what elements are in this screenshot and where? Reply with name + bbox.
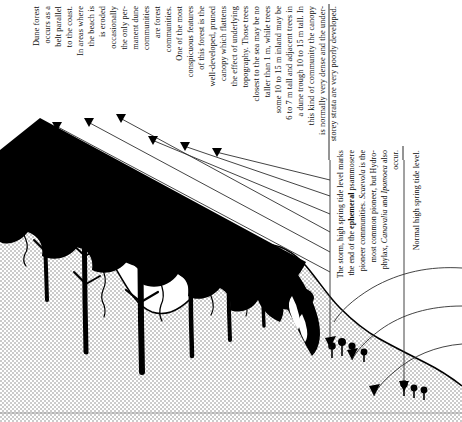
caption-line: taller than 1 m, while trees	[263, 6, 273, 97]
caption-line: is eroded	[98, 6, 108, 37]
caption-line: manent dune	[131, 6, 141, 50]
caption-line: occurs as a	[43, 6, 53, 44]
caption-line: One of the most	[175, 6, 185, 61]
caption-line: some 10 to 15 m inland may be	[274, 6, 284, 113]
dune-forest-figure: Dune forest occurs as a belt parallel to…	[0, 0, 462, 422]
caption-line: pioneer communities. Scaevola is the	[358, 150, 368, 271]
caption-line: the effect of underlying	[230, 6, 240, 86]
caption-dividers	[329, 4, 403, 160]
caption-line: In areas where	[76, 6, 86, 56]
caption-line: phylax, Canavalia and Ipomoea also	[380, 150, 390, 269]
caption-line: occur.	[391, 150, 401, 170]
caption-line: storey strata are very poorly developed.	[329, 6, 339, 141]
caption-line: Dune forest	[32, 6, 42, 46]
caption-line: of this forest is the	[197, 6, 207, 70]
caption-line: belt parallel	[54, 6, 64, 47]
caption-line: the only per-	[120, 6, 130, 50]
caption-line: well-developed, pruned	[208, 6, 218, 87]
caption-line: is normally very dense and the under-	[318, 6, 328, 135]
caption-line: the end of the ephemeral psammosere	[347, 150, 357, 276]
caption-line: this kind of community the canopy	[307, 6, 317, 125]
caption-line: communities.	[164, 6, 174, 52]
caption-line: are forest	[153, 6, 163, 38]
caption-line: most common pioneer, but Hydro-	[369, 150, 379, 262]
caption-line: topography. Those trees	[241, 6, 251, 88]
caption-line: communities	[142, 6, 152, 50]
caption-line: 6 to 7 m tall and adjacent trees in	[285, 6, 295, 120]
caption-line: a dune trough 10 to 15 m tall. In	[296, 6, 306, 116]
caption-line: canopy which flattens	[219, 6, 229, 81]
caption-line: to the coast.	[65, 6, 75, 47]
caption-line: occasionally	[109, 6, 119, 49]
caption-line: The storm, high spring tide level marks	[336, 150, 346, 278]
caption-line: the beach is	[87, 6, 97, 46]
caption-line: closest to the sea may be no	[252, 6, 262, 101]
caption-line: conspicuous features	[186, 6, 196, 77]
caption-line: Normal high spring tide level.	[412, 150, 422, 250]
